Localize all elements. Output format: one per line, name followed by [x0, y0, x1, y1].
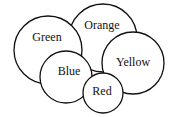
circle-red: Red	[83, 73, 123, 113]
red-label: Red	[92, 84, 111, 98]
circle-diagram: Orange Green Yellow Blue Red	[0, 0, 175, 117]
yellow-label: Yellow	[116, 55, 150, 69]
green-label: Green	[32, 30, 61, 44]
orange-label: Orange	[84, 18, 119, 32]
blue-label: Blue	[58, 64, 81, 78]
